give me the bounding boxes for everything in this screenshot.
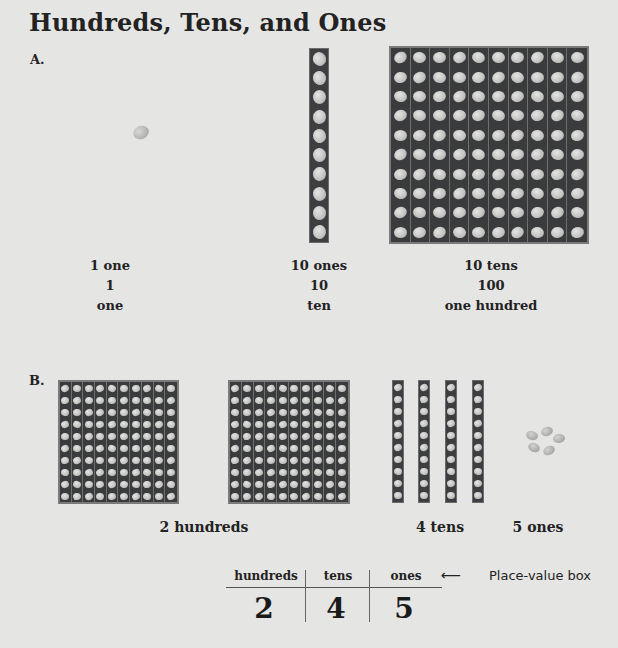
bean-icon <box>119 420 129 429</box>
grid-cell <box>289 418 301 430</box>
bean-icon <box>301 467 311 476</box>
bean-icon <box>73 408 81 415</box>
grid-cell <box>142 418 154 430</box>
bean-icon <box>231 456 240 464</box>
bean-icon <box>96 383 106 392</box>
grid-cell <box>265 406 277 418</box>
bean-icon <box>569 166 586 182</box>
grid-cell <box>528 126 548 145</box>
bean-icon <box>142 443 152 452</box>
grid-cell <box>277 442 289 454</box>
bean-icon <box>95 407 105 417</box>
bean-icon <box>120 444 129 452</box>
grid-cell <box>528 203 548 222</box>
grid-cell <box>411 184 431 203</box>
grid-cell <box>230 406 242 418</box>
grid-cell <box>528 67 548 86</box>
grid-cell <box>567 223 587 242</box>
grid-cell <box>154 406 166 418</box>
bean-icon <box>570 206 585 220</box>
bean-icon <box>266 480 275 488</box>
grid-cell <box>391 223 411 242</box>
bean-icon <box>314 456 322 463</box>
grid-cell <box>107 478 119 490</box>
grid-cell <box>60 442 72 454</box>
bean-icon <box>570 90 584 103</box>
grid-cell <box>509 223 529 242</box>
ten-label-line2: 10 <box>269 276 369 296</box>
bean-icon <box>313 467 323 476</box>
bean-icon <box>394 456 403 464</box>
grid-cell <box>107 490 119 502</box>
grid-cell <box>265 454 277 466</box>
single-bean-one <box>131 123 151 142</box>
grid-cell <box>391 67 411 86</box>
bean-icon <box>452 168 465 179</box>
grid-cell <box>301 430 313 442</box>
grid-cell <box>430 164 450 183</box>
grid-cell <box>130 382 142 394</box>
bean-icon <box>143 396 151 403</box>
bean-icon <box>131 467 141 476</box>
section-a-label: A. <box>30 52 45 67</box>
bean-icon <box>107 419 117 428</box>
bean-icon <box>510 224 527 240</box>
bean-icon <box>166 480 175 489</box>
bean-icon <box>278 456 287 465</box>
ten-rod-3 <box>445 380 457 503</box>
bean-icon <box>412 166 428 181</box>
bean-icon <box>231 396 240 404</box>
bean-icon <box>530 186 546 201</box>
bean-icon <box>419 419 429 428</box>
bean-icon <box>510 186 526 200</box>
grid-cell <box>313 490 325 502</box>
grid-cell <box>528 106 548 125</box>
grid-cell <box>324 454 336 466</box>
bean-icon <box>550 187 564 199</box>
bean-icon <box>167 408 176 416</box>
bean-icon <box>491 206 506 220</box>
grid-cell <box>336 382 348 394</box>
ten-rod-4 <box>472 380 484 503</box>
bean-icon <box>120 468 129 476</box>
bean-icon <box>243 432 252 441</box>
bean-icon <box>266 467 276 477</box>
grid-cell <box>489 164 509 183</box>
bean-icon <box>471 90 485 103</box>
bean-icon <box>452 129 467 142</box>
hundred-square-1 <box>58 380 179 504</box>
bean-icon <box>325 419 335 429</box>
bean-icon <box>393 168 408 181</box>
grid-cell <box>430 145 450 164</box>
grid-cell <box>528 223 548 242</box>
grid-cell <box>411 145 431 164</box>
bean-icon <box>325 384 335 393</box>
grid-cell <box>107 382 119 394</box>
grid-cell <box>567 48 587 67</box>
grid-cell <box>489 87 509 106</box>
bean-icon <box>569 225 585 239</box>
grid-cell <box>265 442 277 454</box>
bean-icon <box>531 71 544 82</box>
grid-cell <box>72 454 84 466</box>
bean-icon <box>491 225 506 239</box>
bean-icon <box>312 205 326 220</box>
grid-cell <box>301 382 313 394</box>
grid-cell <box>430 48 450 67</box>
bean-icon <box>432 149 446 161</box>
bean-icon <box>446 443 456 453</box>
grid-cell <box>254 442 266 454</box>
bean-icon <box>432 89 448 103</box>
grid-cell <box>313 466 325 478</box>
grid-cell <box>509 184 529 203</box>
bean-icon <box>326 492 334 500</box>
grid-cell <box>528 48 548 67</box>
grid-cell <box>230 490 242 502</box>
grid-cell <box>509 164 529 183</box>
grid-cell <box>265 394 277 406</box>
bean-icon <box>474 492 482 499</box>
grid-cell <box>277 478 289 490</box>
grid-cell <box>95 454 107 466</box>
bean-icon <box>96 480 105 488</box>
grid-cell <box>130 394 142 406</box>
